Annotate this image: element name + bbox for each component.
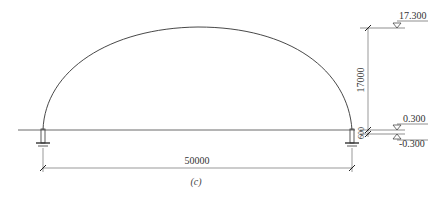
level-marker-upper-base: 0.300 [393, 113, 428, 130]
vertical-dimension: 17000 600 [355, 25, 405, 139]
left-support [36, 129, 50, 146]
level-lower-base-label: -0.300 [399, 138, 425, 149]
span-dimension-label: 50000 [185, 155, 210, 166]
span-dimension: 50000 [40, 148, 355, 172]
level-upper-base-label: 0.300 [403, 113, 426, 124]
rise-dimension-label: 17000 [355, 68, 366, 93]
level-marker-top: 17.300 [393, 10, 428, 28]
base-dimension-label: 600 [357, 127, 366, 139]
level-top-label: 17.300 [399, 10, 427, 21]
arch-curve [43, 27, 352, 130]
arch-elevation-diagram: 50000 (c) 17000 600 17.300 0.300 -0.300 [0, 0, 444, 200]
level-marker-lower-base: -0.300 [393, 134, 428, 149]
figure-caption: (c) [190, 176, 202, 188]
